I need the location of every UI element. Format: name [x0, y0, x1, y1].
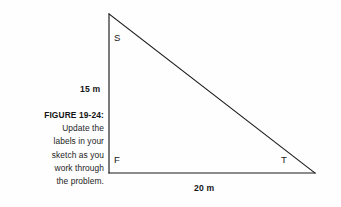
side-length-label-vertical: 15 m [80, 85, 100, 94]
side-length-label-horizontal: 20 m [194, 184, 214, 193]
figure-19-24: FIGURE 19-24: Update the labels in your … [0, 0, 341, 207]
vertex-label-t: T [281, 155, 287, 165]
vertex-label-f: F [114, 155, 120, 165]
right-triangle-diagram [0, 0, 341, 207]
triangle-side-st-hypotenuse [109, 14, 315, 173]
vertex-label-s: S [114, 33, 120, 43]
